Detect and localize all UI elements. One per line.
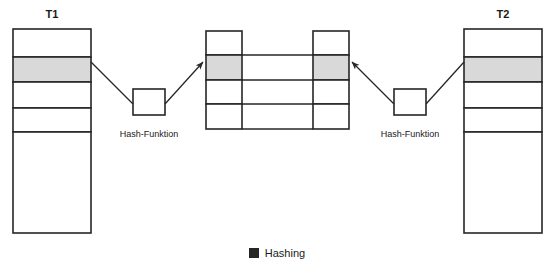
table-row <box>13 57 91 82</box>
bucket-row <box>313 31 349 55</box>
arrow-t1-to-hash <box>91 62 133 104</box>
bucket-row <box>206 31 242 55</box>
hash-box-left <box>133 89 165 115</box>
legend-swatch-icon <box>249 248 259 258</box>
table-row <box>464 29 542 57</box>
table-title-t2: T2 <box>496 8 509 20</box>
bucket-connector-lines <box>242 55 313 129</box>
table-row <box>464 132 542 233</box>
legend: Hashing <box>0 247 554 259</box>
table-row <box>13 108 91 132</box>
bucket-row <box>206 104 242 129</box>
bucket-row <box>313 104 349 129</box>
table-title-t1: T1 <box>45 8 58 20</box>
hash-function-label-right: Hash-Funktion <box>381 129 440 139</box>
legend-label: Hashing <box>265 247 305 259</box>
hash-box-right <box>394 89 426 115</box>
bucket-row <box>206 55 242 80</box>
bucket-row <box>313 80 349 104</box>
arrow-hash-to-bucket-right <box>352 62 394 104</box>
arrow-t2-to-hash <box>426 62 464 104</box>
bucket-row <box>206 80 242 104</box>
table-shapes <box>13 29 542 233</box>
bucket-row <box>313 55 349 80</box>
hashing-diagram <box>0 0 554 274</box>
table-row <box>13 82 91 108</box>
table-row <box>13 132 91 233</box>
table-row <box>464 108 542 132</box>
diagram-canvas: T1 T2 Hash-Funktion Hash-Funktion Hashin… <box>0 0 554 274</box>
arrow-hash-to-bucket-left <box>165 62 203 104</box>
table-row <box>464 82 542 108</box>
table-row <box>13 29 91 57</box>
hash-function-label-left: Hash-Funktion <box>120 129 179 139</box>
table-row <box>464 57 542 82</box>
